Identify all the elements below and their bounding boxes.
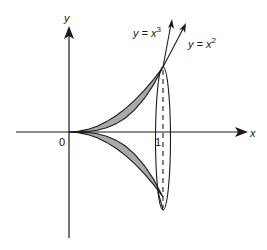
quadratic-curve-label: y = x2 bbox=[187, 36, 217, 50]
cubic-curve-label: y = x3 bbox=[132, 25, 162, 39]
quadratic-label-prefix: y = x bbox=[187, 38, 212, 50]
shaded-region-lower bbox=[69, 132, 163, 197]
quadratic-curve-extension bbox=[163, 27, 184, 67]
quadratic-label-exponent: 2 bbox=[212, 36, 217, 45]
solid-of-revolution-diagram: y x 0 1 y = x3 y = x2 bbox=[0, 0, 267, 250]
shaded-region-upper bbox=[69, 67, 163, 132]
diagram-canvas: y x 0 1 y = x3 y = x2 bbox=[0, 0, 267, 250]
y-axis-label: y bbox=[63, 12, 71, 24]
cubic-label-prefix: y = x bbox=[132, 27, 157, 39]
cubic-label-exponent: 3 bbox=[157, 25, 162, 34]
x-axis-label: x bbox=[249, 127, 256, 139]
origin-label: 0 bbox=[59, 136, 65, 148]
x-tick-1-label: 1 bbox=[155, 136, 161, 148]
cubic-arrowhead-icon bbox=[168, 19, 174, 29]
quadratic-arrowhead-icon bbox=[179, 23, 186, 33]
